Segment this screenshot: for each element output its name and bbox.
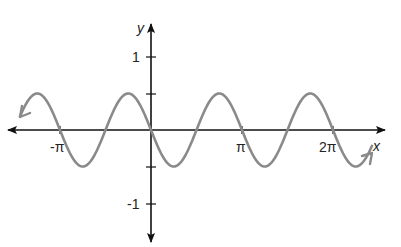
x-tick-label-neg-pi: -π: [50, 139, 65, 155]
y-tick-label-1: 1: [132, 49, 140, 65]
x-tick-label-2pi: 2π: [319, 139, 337, 155]
y-tick-label-neg1: -1: [127, 196, 140, 212]
sine-graph: y x 1 -1 -π π 2π: [0, 0, 401, 247]
x-tick-label-pi: π: [236, 139, 246, 155]
y-axis-label: y: [136, 20, 145, 36]
x-axis-label: x: [372, 138, 381, 154]
